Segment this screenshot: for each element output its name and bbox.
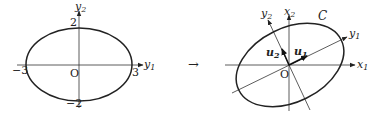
y2-axis-label: y2: [74, 0, 86, 14]
left-diagram: y1 y2 −3 3 2 −2 O: [12, 0, 155, 110]
transform-arrow: →: [188, 57, 199, 72]
tick-pos-2: 2: [70, 16, 77, 29]
x1-axis-label: x1: [357, 58, 368, 72]
y1-axis-label: y1: [143, 58, 155, 72]
tick-neg-2: −2: [66, 97, 82, 110]
right-diagram: C y1 x1 x2 y2 u2 u1 O: [223, 5, 369, 121]
tick-pos-3: 3: [132, 66, 139, 79]
y1-rotated-label: y1: [348, 27, 360, 41]
vector-u2: [282, 49, 289, 65]
origin-label-right: O: [280, 68, 289, 81]
x2-axis-label: x2: [284, 5, 295, 19]
u2-label: u2: [266, 46, 280, 60]
origin-label: O: [70, 67, 79, 80]
diagram-canvas: y1 y2 −3 3 2 −2 O → C y1 x1 x2 y2 u2 u1 …: [0, 0, 377, 121]
y2-rotated-label: y2: [260, 7, 272, 21]
curve-label-C: C: [318, 9, 327, 23]
u1-label: u1: [294, 45, 308, 59]
tick-neg-3: −3: [12, 64, 28, 77]
